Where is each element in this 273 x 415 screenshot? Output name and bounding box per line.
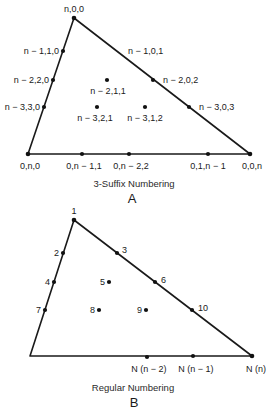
node-left-3: [42, 105, 46, 109]
node-10: [190, 308, 194, 312]
label-10: 10: [198, 303, 208, 313]
label-bottom-3: 0,1,n − 1: [190, 161, 225, 171]
node-bottom-3: [206, 152, 210, 156]
label-n-minus-2: N (n − 2): [131, 364, 166, 374]
figure-letter-a: A: [128, 191, 137, 206]
figure-letter-b: B: [130, 395, 139, 410]
caption-b: Regular Numbering: [92, 382, 174, 393]
node-bottom-2: [127, 152, 131, 156]
node-9: [144, 308, 148, 312]
node-interior-3: [143, 105, 147, 109]
node-right-2: [151, 78, 155, 82]
node-right-3: [187, 105, 191, 109]
label-2: 2: [54, 248, 59, 258]
label-right-2: n − 2,0,2: [163, 75, 198, 85]
node-n-minus-1: [191, 354, 195, 358]
label-n-minus-1: N (n − 1): [178, 364, 213, 374]
node-bottom-left: [26, 152, 31, 157]
label-left-2: n − 2,2,0: [14, 75, 49, 85]
node-7: [43, 308, 47, 312]
triangle-b-outline: [30, 220, 252, 356]
node-bottom-1: [80, 152, 84, 156]
diagram-b: 1 2 3 4 5 6 7 8 9 10 N (n − 2) N (n − 1)…: [30, 206, 266, 410]
diagram-a: n,0,0 n − 1,1,0 n − 2,2,0 n − 3,3,0 n − …: [5, 4, 262, 206]
label-bottom-right: 0,0,n: [242, 161, 262, 171]
label-9: 9: [137, 305, 142, 315]
label-n: N (n): [246, 364, 266, 374]
node-n: [250, 354, 255, 359]
label-bottom-2: 0,n − 2,2: [113, 161, 148, 171]
label-5: 5: [100, 277, 105, 287]
label-4: 4: [45, 277, 50, 287]
node-apex: [72, 16, 77, 21]
node-8: [97, 308, 101, 312]
label-7: 7: [36, 305, 41, 315]
node-6: [153, 280, 157, 284]
label-8: 8: [90, 305, 95, 315]
triangle-numbering-figure: n,0,0 n − 1,1,0 n − 2,2,0 n − 3,3,0 n − …: [0, 0, 273, 415]
node-3: [115, 251, 119, 255]
label-left-3: n − 3,3,0: [5, 102, 40, 112]
label-bottom-1: 0,n − 1,1: [66, 161, 101, 171]
label-3: 3: [122, 245, 127, 255]
label-apex: n,0,0: [64, 4, 84, 14]
node-left-2: [51, 78, 55, 82]
label-interior-3: n − 3,1,2: [127, 113, 162, 123]
node-2: [61, 251, 65, 255]
label-left-1: n − 1,1,0: [24, 46, 59, 56]
node-n-minus-2: [145, 355, 149, 359]
node-interior-2: [95, 105, 99, 109]
label-bottom-left: 0,n,0: [20, 161, 40, 171]
node-5: [107, 280, 111, 284]
label-interior-2: n − 3,2,1: [77, 113, 112, 123]
node-4: [52, 280, 56, 284]
node-bottom-right: [248, 152, 253, 157]
triangle-a-outline: [28, 18, 250, 154]
label-6: 6: [161, 275, 166, 285]
node-interior-1: [105, 78, 109, 82]
label-right-1: n − 1,0,1: [128, 46, 163, 56]
label-interior-1: n − 2,1,1: [90, 86, 125, 96]
label-1: 1: [71, 206, 76, 216]
label-right-3: n − 3,0,3: [199, 102, 234, 112]
node-left-1: [61, 49, 65, 53]
caption-a: 3-Suffix Numbering: [93, 178, 174, 189]
node-1: [72, 218, 77, 223]
